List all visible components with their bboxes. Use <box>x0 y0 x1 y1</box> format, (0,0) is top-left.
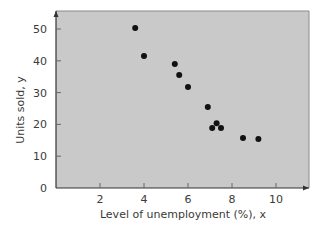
data-point <box>240 135 246 141</box>
y-tick-label: 0 <box>40 182 47 195</box>
scatter-chart: 01020304050 246810 Units sold, y Level o… <box>0 0 321 232</box>
x-tick-label: 2 <box>97 193 104 206</box>
x-axis-label: Level of unemployment (%), x <box>100 208 267 221</box>
x-tick-label: 4 <box>141 193 148 206</box>
data-point <box>172 61 178 67</box>
y-tick-label: 20 <box>33 118 47 131</box>
y-tick-label: 10 <box>33 150 47 163</box>
y-tick-label: 50 <box>33 23 47 36</box>
data-point <box>185 84 191 90</box>
x-tick-label: 10 <box>269 193 283 206</box>
data-point <box>209 125 215 131</box>
data-point <box>214 120 220 126</box>
data-point <box>255 136 261 142</box>
x-tick-label: 6 <box>185 193 192 206</box>
y-tick-label: 30 <box>33 87 47 100</box>
chart-canvas: 01020304050 246810 Units sold, y Level o… <box>0 0 321 232</box>
data-point <box>176 72 182 78</box>
x-tick-label: 8 <box>229 193 236 206</box>
y-tick-label: 40 <box>33 55 47 68</box>
plot-area <box>56 11 309 188</box>
data-point <box>218 125 224 131</box>
data-point <box>141 53 147 59</box>
data-point <box>205 104 211 110</box>
data-point <box>132 25 138 31</box>
y-axis-label: Units sold, y <box>14 76 27 144</box>
